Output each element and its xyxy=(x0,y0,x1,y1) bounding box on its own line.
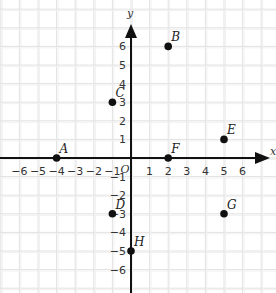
point-label: G xyxy=(227,198,237,212)
x-tick-label: −2 xyxy=(86,165,102,178)
x-tick-label: 6 xyxy=(239,165,246,178)
point-label: E xyxy=(226,123,236,137)
plotted-points: ABCDEFGH xyxy=(53,30,237,254)
point-label: C xyxy=(115,86,124,100)
x-axis-label: x xyxy=(270,145,276,158)
coordinate-plane: xyO −6−5−4−3−2−1123456654321−1−2−3−4−5−6… xyxy=(0,0,276,293)
x-tick-label: 2 xyxy=(165,165,172,178)
x-tick-label: 5 xyxy=(221,165,228,178)
x-tick-label: 4 xyxy=(202,165,209,178)
y-tick-label: −4 xyxy=(110,226,126,239)
point-e: E xyxy=(220,123,236,143)
x-tick-label: −3 xyxy=(67,165,83,178)
axes: xyO xyxy=(0,7,276,293)
point-g: G xyxy=(220,198,237,218)
x-tick-label: −6 xyxy=(11,165,27,178)
point-b: B xyxy=(164,30,180,50)
point-label: A xyxy=(59,142,69,156)
y-tick-label: −6 xyxy=(110,264,126,277)
coordinate-plane-svg: xyO −6−5−4−3−2−1123456654321−1−2−3−4−5−6… xyxy=(0,0,276,293)
point-label: D xyxy=(114,198,125,212)
x-tick-label: −5 xyxy=(30,165,46,178)
y-tick-label: −5 xyxy=(110,245,126,258)
y-tick-label: −1 xyxy=(110,171,126,184)
y-axis-label: y xyxy=(126,7,134,20)
point-label: B xyxy=(170,30,180,44)
y-axis-arrow-icon xyxy=(125,24,137,38)
x-tick-label: −4 xyxy=(48,165,64,178)
point-label: H xyxy=(133,235,145,249)
x-tick-label: 1 xyxy=(146,165,153,178)
grid-lines xyxy=(0,0,276,293)
x-tick-label: 3 xyxy=(183,165,190,178)
y-tick-label: 2 xyxy=(119,115,126,128)
y-tick-label: 5 xyxy=(119,59,126,72)
point-h: H xyxy=(127,235,145,255)
y-tick-label: 6 xyxy=(119,40,126,53)
point-label: F xyxy=(170,142,180,156)
y-tick-label: 1 xyxy=(119,133,126,146)
